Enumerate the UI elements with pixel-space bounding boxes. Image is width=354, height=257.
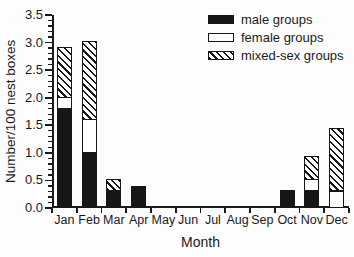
female-groups-swatch-icon <box>208 33 234 42</box>
y-major-tick <box>45 69 52 71</box>
y-minor-tick <box>48 36 52 37</box>
y-minor-tick <box>48 31 52 32</box>
y-minor-tick <box>48 75 52 76</box>
bar-segment-male-groups <box>106 191 121 208</box>
male-groups-swatch-icon <box>208 15 234 24</box>
legend: male groups female groups mixed-sex grou… <box>208 13 344 62</box>
legend-label: female groups <box>241 31 323 44</box>
bar-chart: Number/100 nest boxes Month male groups … <box>0 0 354 257</box>
bar-segment-female-groups <box>329 191 344 208</box>
y-tick-label: 2.5 <box>8 62 43 78</box>
y-major-tick <box>45 14 52 16</box>
y-minor-tick <box>48 20 52 21</box>
bar-segment-female-groups <box>57 97 72 109</box>
y-minor-tick <box>48 119 52 120</box>
y-minor-tick <box>48 64 52 65</box>
mixed-sex-groups-swatch-icon <box>208 51 234 60</box>
y-major-tick <box>45 180 52 182</box>
y-tick-label: 1.5 <box>8 117 43 133</box>
y-major-tick <box>45 152 52 154</box>
bar-segment-female-groups <box>82 119 97 153</box>
y-minor-tick <box>48 47 52 48</box>
bar-segment-male-groups <box>57 109 72 208</box>
y-tick-label: 1.0 <box>8 145 43 161</box>
bar-segment-female-groups <box>304 179 319 191</box>
y-major-tick <box>45 42 52 44</box>
y-minor-tick <box>48 147 52 148</box>
bar-segment-male-groups <box>131 186 146 208</box>
y-minor-tick <box>48 185 52 186</box>
y-minor-tick <box>48 58 52 59</box>
y-minor-tick <box>48 81 52 82</box>
y-tick-label: 2.0 <box>8 90 43 106</box>
y-minor-tick <box>48 169 52 170</box>
bar-segment-mixed-sex-groups <box>57 47 72 98</box>
legend-label: mixed-sex groups <box>241 49 344 62</box>
y-minor-tick <box>48 114 52 115</box>
legend-item-female-groups: female groups <box>208 31 344 44</box>
y-minor-tick <box>48 196 52 197</box>
y-tick-label: 3.5 <box>8 7 43 23</box>
y-minor-tick <box>48 158 52 159</box>
y-minor-tick <box>48 163 52 164</box>
y-minor-tick <box>48 53 52 54</box>
y-major-tick <box>45 124 52 126</box>
y-minor-tick <box>48 191 52 192</box>
y-tick-label: 3.0 <box>8 35 43 51</box>
x-axis-title: Month <box>52 234 349 250</box>
y-minor-tick <box>48 136 52 137</box>
legend-label: male groups <box>241 13 313 26</box>
x-tick-label: Dec <box>321 213 352 227</box>
y-minor-tick <box>48 130 52 131</box>
y-minor-tick <box>48 174 52 175</box>
bar-segment-mixed-sex-groups <box>106 179 121 191</box>
y-tick-label: 0.0 <box>8 200 43 216</box>
bar-segment-male-groups <box>304 191 319 208</box>
bar-segment-mixed-sex-groups <box>82 41 97 119</box>
legend-item-mixed-sex-groups: mixed-sex groups <box>208 49 344 62</box>
legend-item-male-groups: male groups <box>208 13 344 26</box>
y-minor-tick <box>48 92 52 93</box>
y-minor-tick <box>48 108 52 109</box>
y-tick-label: 0.5 <box>8 172 43 188</box>
bar-segment-male-groups <box>82 153 97 208</box>
bar-segment-male-groups <box>280 190 295 208</box>
bar-segment-mixed-sex-groups <box>329 128 344 192</box>
bar-segment-mixed-sex-groups <box>304 156 319 180</box>
y-minor-tick <box>48 202 52 203</box>
y-minor-tick <box>48 141 52 142</box>
y-major-tick <box>45 97 52 99</box>
y-minor-tick <box>48 25 52 26</box>
y-minor-tick <box>48 103 52 104</box>
y-minor-tick <box>48 86 52 87</box>
